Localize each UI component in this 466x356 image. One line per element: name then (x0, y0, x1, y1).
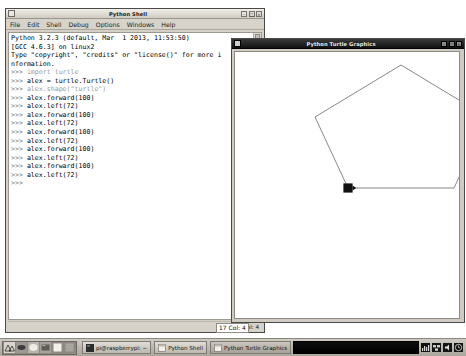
console-line: >>> alex.left(72) (11, 102, 252, 111)
shell-menu-bar[interactable]: File Edit Shell Debug Options Windows He… (6, 19, 264, 30)
prompt-marker: >>> (11, 137, 23, 145)
terminal-icon (86, 344, 94, 352)
taskbar-window-list[interactable]: pi@raspberrypi: ~ Python Shell Python Tu… (82, 341, 291, 354)
console-line-text: alex = turtle.Turtle() (23, 77, 114, 85)
console-line-text: alex.shape("turtle") (23, 85, 106, 93)
console-line: >>> alex.forward(100) (11, 145, 252, 154)
minimize-button[interactable]: – (441, 41, 447, 47)
cpu-monitor-icon[interactable] (421, 343, 430, 352)
close-button[interactable]: × (256, 11, 262, 17)
console-line: >>> alex.forward(100) (11, 162, 252, 171)
console-line: >>> alex.forward(100) (11, 128, 252, 137)
menu-help[interactable]: Help (161, 21, 175, 28)
console-line-text (23, 179, 27, 187)
console-line-text: alex.left(72) (23, 102, 79, 110)
menu-raspberry-icon[interactable] (4, 342, 15, 353)
mathematica-icon[interactable] (52, 342, 63, 353)
prompt-marker: >>> (11, 179, 23, 187)
maximize-button[interactable]: □ (249, 11, 255, 17)
shell-title-bar[interactable]: Python Shell – □ × (6, 9, 264, 19)
python-shell-window[interactable]: Python Shell – □ × File Edit Shell Debug… (5, 8, 265, 333)
menu-shell[interactable]: Shell (46, 21, 61, 28)
window-icon (214, 344, 222, 352)
taskbar-item-python-shell[interactable]: Python Shell (154, 341, 207, 354)
console-line: >>> alex = turtle.Turtle() (11, 77, 252, 86)
menu-windows[interactable]: Windows (127, 21, 155, 28)
window-menu-icon[interactable] (8, 10, 15, 17)
taskbar-item-python-shell-label: Python Shell (168, 345, 203, 351)
console-line: nformation. (11, 60, 252, 69)
turtle-graphics-window[interactable]: Python Turtle Graphics – □ × (231, 38, 465, 323)
window-icon (158, 344, 166, 352)
prompt-marker: >>> (11, 102, 23, 110)
taskbar-item-terminal[interactable]: pi@raspberrypi: ~ (82, 341, 151, 354)
wolfram-icon[interactable] (64, 342, 75, 353)
prompt-marker: >>> (11, 77, 23, 85)
shell-window-controls[interactable]: – □ × (241, 11, 262, 17)
console-line-text: import turtle (23, 68, 79, 76)
prompt-marker: >>> (11, 68, 23, 76)
console-line-text: alex.left(72) (23, 119, 79, 127)
terminal-icon[interactable] (40, 342, 51, 353)
taskbar-launcher[interactable] (2, 341, 77, 355)
console-line: >>> alex.shape("turtle") (11, 85, 252, 94)
console-line-text: alex.forward(100) (23, 111, 94, 119)
prompt-marker: >>> (11, 171, 23, 179)
turtle-cursor-icon (343, 183, 356, 192)
menu-edit[interactable]: Edit (27, 21, 39, 28)
window-menu-icon[interactable] (234, 40, 241, 47)
console-line: >>> alex.left(72) (11, 137, 252, 146)
clock-icon[interactable] (454, 343, 463, 352)
prompt-marker: >>> (11, 119, 23, 127)
taskbar-item-turtle-graphics[interactable]: Python Turtle Graphics (210, 341, 291, 354)
console-line: >>> alex.left(72) (11, 119, 252, 128)
cursor-position-tooltip-label: 17 Col: 4 (219, 324, 246, 331)
pentagon-shape (315, 65, 460, 188)
console-line-text: alex.left(72) (23, 154, 79, 162)
maximize-button[interactable]: □ (449, 41, 455, 47)
prompt-marker: >>> (11, 128, 23, 136)
console-line: Type "copyright", "credits" or "license(… (11, 51, 252, 60)
menu-file[interactable]: File (10, 21, 20, 28)
console-line: >>> alex.forward(100) (11, 94, 252, 103)
menu-debug[interactable]: Debug (68, 21, 88, 28)
close-button[interactable]: × (456, 41, 462, 47)
turtle-drawing-canvas[interactable] (234, 51, 460, 319)
prompt-marker: >>> (11, 85, 23, 93)
prompt-marker: >>> (11, 145, 23, 153)
minimize-button[interactable]: – (241, 11, 247, 17)
console-line: >>> alex.left(72) (11, 171, 252, 180)
volume-icon[interactable] (443, 343, 452, 352)
taskbar-item-turtle-graphics-label: Python Turtle Graphics (224, 345, 287, 351)
taskbar[interactable]: pi@raspberrypi: ~ Python Shell Python Tu… (0, 338, 466, 356)
console-line-text: alex.forward(100) (23, 94, 94, 102)
console-line-text: alex.left(72) (23, 137, 79, 145)
file-manager-icon[interactable] (28, 342, 39, 353)
prompt-marker: >>> (11, 162, 23, 170)
shell-output-text[interactable]: Python 3.2.3 (default, Mar 1 2013, 11:53… (11, 34, 252, 319)
turtle-window-controls[interactable]: – □ × (441, 41, 462, 47)
network-icon[interactable] (432, 343, 441, 352)
shell-window-title: Python Shell (15, 11, 241, 17)
console-line: [GCC 4.6.3] on linux2 (11, 43, 252, 52)
cursor-position-tooltip: 17 Col: 4 (216, 323, 249, 333)
console-line: Python 3.2.3 (default, Mar 1 2013, 11:53… (11, 34, 252, 43)
console-line: >>> (11, 179, 252, 188)
console-line-text: alex.forward(100) (23, 128, 94, 136)
prompt-marker: >>> (11, 111, 23, 119)
system-tray[interactable] (421, 341, 464, 354)
console-line-text: alex.forward(100) (23, 162, 94, 170)
turtle-title-bar[interactable]: Python Turtle Graphics – □ × (232, 39, 464, 49)
prompt-marker: >>> (11, 154, 23, 162)
web-browser-icon[interactable] (16, 342, 27, 353)
turtle-pentagon-drawing (235, 52, 460, 319)
prompt-marker: >>> (11, 94, 23, 102)
menu-options[interactable]: Options (96, 21, 120, 28)
console-line-text: alex.forward(100) (23, 145, 94, 153)
console-line: >>> alex.forward(100) (11, 111, 252, 120)
console-line-text: alex.left(72) (23, 171, 79, 179)
shell-console-area[interactable]: Python 3.2.3 (default, Mar 1 2013, 11:53… (8, 32, 262, 320)
console-line: >>> import turtle (11, 68, 252, 77)
desktop: Python Shell – □ × File Edit Shell Debug… (0, 0, 466, 356)
turtle-window-title: Python Turtle Graphics (241, 41, 441, 47)
